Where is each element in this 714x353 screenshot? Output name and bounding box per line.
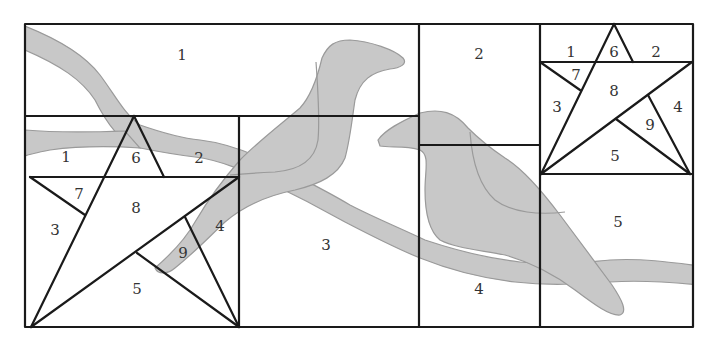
label-small-star-1: 1 xyxy=(566,43,576,61)
label-large-star-3: 3 xyxy=(50,221,60,239)
label-right-column-4: 4 xyxy=(474,280,484,298)
label-small-star-5: 5 xyxy=(610,147,620,165)
label-large-star-6: 6 xyxy=(131,149,141,167)
label-right-column-2: 2 xyxy=(474,45,484,63)
label-small-star-4: 4 xyxy=(673,98,683,116)
label-large-star-5: 5 xyxy=(132,280,142,298)
label-small-star-8: 8 xyxy=(609,82,619,100)
label-small-star-7: 7 xyxy=(571,66,581,84)
label-large-star-1: 1 xyxy=(61,148,71,166)
label-top-left-1: 1 xyxy=(177,46,187,64)
label-large-star-2: 2 xyxy=(194,149,204,167)
label-large-star-9: 9 xyxy=(178,244,188,262)
label-large-star-8: 8 xyxy=(131,199,141,217)
label-small-star-9: 9 xyxy=(645,116,655,134)
label-small-star-3: 3 xyxy=(552,98,562,116)
right-bird-shape xyxy=(378,111,624,315)
branch-stub-shape xyxy=(25,130,140,156)
label-large-star-4: 4 xyxy=(215,217,225,235)
label-center-bottom-3: 3 xyxy=(321,236,331,254)
label-small-star-2: 2 xyxy=(651,43,661,61)
label-bottom-right-5: 5 xyxy=(613,213,623,231)
artwork-layer xyxy=(25,26,700,315)
quilt-pattern-diagram: 1 1 6 2 7 8 3 4 9 5 3 2 4 1 6 2 7 8 3 4 … xyxy=(0,0,714,353)
label-small-star-6: 6 xyxy=(609,43,619,61)
label-large-star-7: 7 xyxy=(74,185,84,203)
